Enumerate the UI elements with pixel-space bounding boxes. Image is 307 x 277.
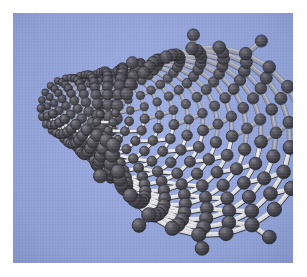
carbon-atom [226,111,237,122]
carbon-atom [132,219,146,233]
carbon-atom [169,106,178,115]
carbon-atom [264,187,278,201]
carbon-atom [38,97,45,104]
carbon-atom [128,154,138,164]
carbon-atom [187,29,199,41]
carbon-atom [153,98,162,107]
carbon-atom [111,164,125,178]
carbon-atom [270,127,282,139]
carbon-atom [140,146,150,156]
carbon-atom [275,92,287,104]
carbon-atom [174,85,183,94]
carbon-atom [140,103,148,111]
carbon-atom [122,145,131,154]
carbon-atom [137,66,150,79]
carbon-atom [176,179,188,191]
carbon-atom [50,99,58,107]
carbon-atom [255,135,268,148]
carbon-atom [126,57,138,69]
carbon-atom [111,109,120,118]
carbon-atom [242,123,253,134]
figure-plate [13,13,293,263]
nanotube-figure [0,0,307,277]
carbon-atom [169,120,179,130]
carbon-atom [93,118,101,126]
carbon-atom [195,241,209,255]
carbon-atom [142,208,156,222]
carbon-atom [70,96,79,105]
carbon-atom [277,165,291,179]
carbon-atom [217,179,229,191]
carbon-atom [166,157,177,168]
carbon-atom [257,172,270,185]
carbon-atom [220,93,231,104]
carbon-atom [73,104,82,113]
carbon-atom [137,126,146,135]
carbon-atom [92,98,103,109]
carbon-atom [152,166,163,177]
carbon-atom [164,92,173,101]
carbon-atom [81,97,91,107]
carbon-atom [126,107,134,115]
carbon-atom [125,117,134,126]
carbon-atom [245,218,259,232]
carbon-atom [156,80,165,89]
carbon-atom [267,150,280,163]
carbon-atom [136,91,144,99]
carbon-atom [219,226,233,240]
carbon-atom [71,119,82,130]
carbon-atom [155,111,164,120]
carbon-atom [147,156,157,166]
carbon-atom [201,85,211,95]
nanotube-illustration [13,13,293,263]
carbon-atom [213,119,223,129]
carbon-atom [203,154,215,166]
carbon-atom [37,104,45,112]
carbon-atom [239,47,252,60]
carbon-atom [49,109,58,118]
carbon-atom [230,163,242,175]
carbon-atom [165,134,175,144]
carbon-atom [109,118,118,127]
carbon-atom [62,102,71,111]
carbon-atom [120,127,129,136]
carbon-atom [184,115,193,124]
carbon-atom [247,93,258,104]
carbon-atom [172,168,183,179]
carbon-atom [148,136,158,146]
carbon-atom [102,89,113,100]
carbon-atom [255,35,267,47]
carbon-atom [191,168,203,180]
carbon-atom [221,149,233,161]
carbon-atom [266,104,278,116]
carbon-atom [226,130,238,142]
carbon-atom [210,137,222,149]
carbon-atom [160,51,173,64]
carbon-atom [213,41,226,54]
carbon-atom [193,141,204,152]
carbon-atom [176,145,187,156]
carbon-atom [249,157,262,170]
carbon-atom [192,228,206,242]
carbon-atom [245,204,259,218]
carbon-atom [106,138,120,152]
carbon-atom [60,114,70,124]
carbon-atom [184,156,195,167]
carbon-atom [120,87,133,100]
carbon-atom [283,116,293,128]
carbon-atom [165,221,179,235]
carbon-atom [210,101,220,111]
carbon-atom [153,123,163,133]
carbon-atom [131,136,140,145]
carbon-atom [262,230,276,244]
carbon-atom [140,114,149,123]
carbon-atom [198,108,208,118]
carbon-atom [96,110,104,118]
carbon-atom [181,99,190,108]
carbon-atom [237,176,250,189]
carbon-atom [158,146,168,156]
carbon-atom [198,125,209,136]
carbon-atom [192,92,202,102]
carbon-atom [263,61,276,74]
carbon-atom [281,80,293,93]
